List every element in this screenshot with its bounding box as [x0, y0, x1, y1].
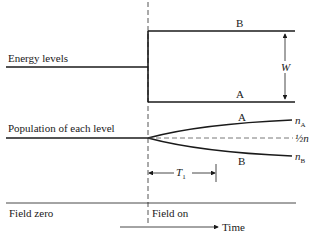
level-a-label: A [236, 88, 244, 100]
n-a-label: nA [295, 114, 306, 131]
t1-label: T1 [176, 166, 186, 183]
population-label: Population of each level [8, 122, 115, 134]
gap-w-label: W [280, 61, 291, 73]
energy-levels-label: Energy levels [8, 52, 68, 64]
curve-b-label: B [238, 155, 245, 167]
field-zero-label: Field zero [9, 207, 53, 219]
half-n-label: ½n [295, 132, 309, 144]
field-on-label: Field on [152, 207, 188, 219]
diagram-canvas [0, 0, 314, 236]
population-curve-a [148, 120, 292, 138]
n-b-label: nB [295, 150, 305, 167]
time-label: Time [222, 221, 245, 233]
curve-a-label: A [238, 111, 246, 123]
level-b-label: B [236, 17, 243, 29]
population-curve-b [148, 138, 292, 156]
